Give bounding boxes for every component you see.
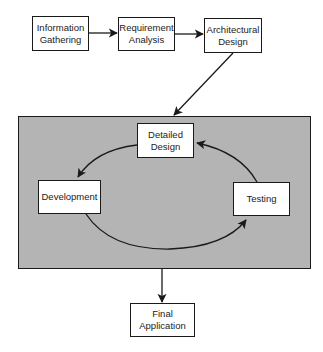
arrow-dev-to-test (86, 214, 246, 249)
connector-arrows (0, 0, 323, 352)
arrow-arch-to-panel (174, 53, 233, 115)
arrow-test-to-detailed (197, 143, 257, 182)
arrow-detailed-to-dev (78, 145, 137, 177)
